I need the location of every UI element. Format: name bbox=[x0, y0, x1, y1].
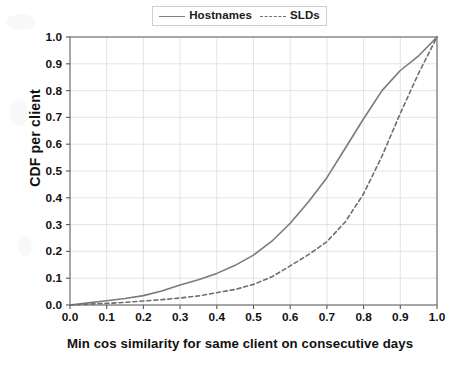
gridlines bbox=[70, 37, 437, 305]
plot-area bbox=[0, 0, 465, 370]
tick-marks bbox=[66, 37, 437, 309]
cdf-chart-figure: Hostnames SLDs CDF per client Min cos si… bbox=[0, 0, 465, 370]
